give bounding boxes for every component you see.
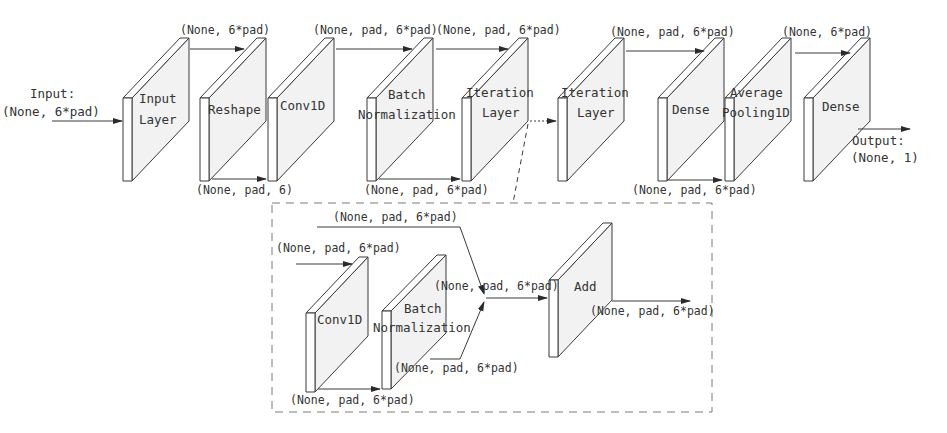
shape-dense-to-pooling: (None, pad, 6*pad) — [632, 183, 757, 197]
shape-reshape-to-conv1d: (None, pad, 6) — [196, 183, 293, 197]
input-shape: (None, 6*pad) — [2, 104, 100, 119]
input-label: Input: — [30, 86, 75, 101]
block-front — [462, 98, 471, 181]
shape-pooling-to-dense: (None, 6*pad) — [782, 25, 872, 39]
shape-conv1d-to-batch: (None, pad, 6*pad) — [313, 23, 438, 37]
detail-link-line — [513, 124, 528, 203]
layer-label-conv1d: Conv1D — [280, 98, 325, 113]
block-front — [268, 98, 277, 181]
shape-iteration-to-dense: (None, pad, 6*pad) — [610, 25, 735, 39]
block-front — [306, 313, 315, 392]
layer-label-input-layer-2: Layer — [139, 112, 177, 127]
layer-label-dense-1: Dense — [672, 102, 710, 117]
layer-label-batch: Batch — [388, 87, 426, 102]
layer-label-iteration-1a: Iteration — [466, 85, 534, 100]
layer-label-iteration-1b: Layer — [482, 105, 520, 120]
layer-block-input-layer — [123, 38, 189, 181]
inner-shape-output: (None, pad, 6*pad) — [590, 304, 715, 318]
inner-shape-bn-out: (None, pad, 6*pad) — [394, 361, 519, 375]
inner-shape-merge: (None, pad, 6*pad) — [434, 279, 559, 293]
shape-iteration-top: (None, pad, 6*pad) — [436, 23, 561, 37]
inner-shape-input: (None, pad, 6*pad) — [276, 241, 401, 255]
output-label: Output: — [852, 133, 905, 148]
shape-batch-to-iteration: (None, pad, 6*pad) — [364, 183, 489, 197]
layer-label-iteration-2a: Iteration — [561, 85, 629, 100]
layer-label-iteration-2b: Layer — [577, 105, 615, 120]
output-shape: (None, 1) — [851, 150, 919, 165]
layer-label-reshape: Reshape — [208, 102, 261, 117]
inner-label-normalization: Normalization — [373, 320, 471, 335]
inner-shape-conv-to-bn: (None, pad, 6*pad) — [290, 393, 415, 407]
block-front — [558, 98, 567, 181]
block-front — [123, 98, 132, 181]
layer-label-pooling1d: Pooling1D — [722, 105, 790, 120]
shape-input-to-reshape: (None, 6*pad) — [180, 23, 270, 37]
inner-label-add: Add — [574, 279, 597, 294]
layer-label-dense-2: Dense — [822, 99, 860, 114]
inner-label-conv1d: Conv1D — [317, 312, 362, 327]
layer-label-input-layer-1: Input — [139, 91, 177, 106]
layer-label-average: Average — [730, 85, 783, 100]
inner-shape-skip: (None, pad, 6*pad) — [333, 210, 458, 224]
block-front — [804, 98, 813, 181]
network-architecture-diagram: Input: (None, 6*pad) Input Layer Reshape… — [0, 0, 947, 433]
inner-label-batch: Batch — [404, 301, 442, 316]
layer-label-normalization: Normalization — [358, 107, 456, 122]
block-front — [658, 98, 667, 181]
